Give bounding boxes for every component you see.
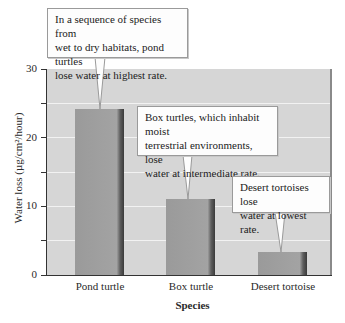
y-tick-label-0: 0 bbox=[7, 269, 37, 280]
x-label-desert-tortoise: Desert tortoise bbox=[233, 280, 333, 292]
callout-desert-line-2: water at lowest rate. bbox=[240, 208, 323, 236]
x-label-pond-turtle: Pond turtle bbox=[50, 280, 150, 292]
y-tick-10 bbox=[41, 206, 47, 207]
bar-box-turtle bbox=[166, 199, 215, 275]
gridline-25 bbox=[47, 103, 330, 104]
x-axis-title: Species bbox=[0, 299, 345, 311]
y-tick-25 bbox=[41, 103, 47, 104]
callout-box-turtle: Box turtles, which inhabit moist terrest… bbox=[137, 106, 278, 156]
x-label-box-turtle: Box turtle bbox=[141, 280, 241, 292]
callout-pond-turtle: In a sequence of species from wet to dry… bbox=[47, 8, 188, 58]
bar-desert-tortoise bbox=[258, 252, 307, 275]
y-tick-15 bbox=[41, 172, 47, 173]
x-axis-line bbox=[46, 275, 332, 276]
callout-pond-line-3: lose water at highest rate. bbox=[55, 68, 181, 82]
callout-box-line-1: Box turtles, which inhabit moist bbox=[145, 110, 271, 138]
y-axis-label: Water loss (µg/cm²/hour) bbox=[12, 88, 24, 248]
callout-pond-line-1: In a sequence of species from bbox=[55, 12, 181, 40]
callout-desert-line-1: Desert tortoises lose bbox=[240, 180, 323, 208]
callout-box-line-2: terrestrial environments, lose bbox=[145, 138, 271, 166]
y-tick-5 bbox=[41, 240, 47, 241]
callout-pond-line-2: wet to dry habitats, pond turtles bbox=[55, 40, 181, 68]
y-tick-30 bbox=[41, 69, 47, 70]
bar-pond-turtle bbox=[75, 109, 124, 275]
y-tick-label-30: 30 bbox=[7, 63, 37, 74]
y-tick-20 bbox=[41, 137, 47, 138]
y-tick-0 bbox=[41, 275, 47, 276]
callout-desert-tortoise: Desert tortoises lose water at lowest ra… bbox=[232, 176, 330, 213]
